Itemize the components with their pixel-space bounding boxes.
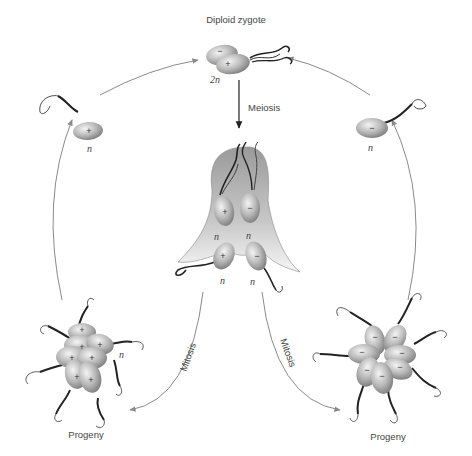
gamete-minus-sign: − bbox=[369, 123, 374, 133]
arrow-gamete-minus-to-zygote bbox=[288, 58, 370, 95]
progeny-left-sign: + bbox=[74, 372, 79, 382]
tetrad-cell-3-ploidy: n bbox=[220, 275, 225, 286]
gamete-plus-sign: + bbox=[86, 126, 91, 136]
gamete-minus-ploidy: n bbox=[368, 142, 373, 153]
progeny-left-ploidy: n bbox=[119, 349, 124, 360]
tetrad-sac: + − n n + − n n bbox=[176, 142, 300, 292]
progeny-left-sign: + bbox=[89, 353, 94, 363]
tetrad-cell-1-sign: + bbox=[222, 207, 227, 217]
zygote-sign-plus: + bbox=[225, 59, 230, 69]
progeny-right-sign: − bbox=[372, 332, 377, 342]
progeny-right: − − − − − − − Progeny bbox=[313, 294, 446, 442]
progeny-right-sign: − bbox=[379, 371, 384, 381]
arrow-mitosis-right bbox=[262, 292, 340, 410]
progeny-right-sign: − bbox=[397, 362, 402, 372]
progeny-right-sign: − bbox=[359, 347, 364, 357]
progeny-right-sign: − bbox=[399, 348, 404, 358]
tetrad-cell-3-sign: + bbox=[220, 251, 225, 261]
arrow-progeny-left-to-gamete bbox=[53, 120, 72, 300]
arrow-progeny-right-to-gamete bbox=[392, 120, 416, 300]
progeny-left-sign: + bbox=[97, 340, 102, 350]
zygote-sign-minus: − bbox=[217, 46, 222, 56]
mitosis-left-label: Mitosis bbox=[178, 341, 199, 373]
zygote: Diploid zygote − + 2n bbox=[205, 14, 292, 85]
tetrad-cell-1-ploidy: n bbox=[214, 231, 219, 242]
gamete-plus: + n bbox=[40, 96, 104, 154]
progeny-left: + + + + + + + n Progeny bbox=[26, 298, 143, 440]
progeny-left-sign: + bbox=[79, 325, 84, 335]
gamete-plus-ploidy: n bbox=[87, 143, 92, 154]
progeny-right-sign: − bbox=[392, 332, 397, 342]
tetrad-cell-4-sign: − bbox=[254, 251, 259, 261]
gamete-minus: − n bbox=[356, 100, 426, 153]
progeny-right-sign: − bbox=[364, 365, 369, 375]
life-cycle-diagram: Diploid zygote − + 2n Meiosis + n − n bbox=[0, 0, 472, 456]
zygote-ploidy: 2n bbox=[210, 74, 220, 85]
progeny-left-sign: + bbox=[69, 353, 74, 363]
meiosis-label: Meiosis bbox=[248, 102, 280, 113]
progeny-left-sign: + bbox=[79, 342, 84, 352]
progeny-left-sign: + bbox=[88, 375, 93, 385]
progeny-right-label: Progeny bbox=[370, 431, 406, 442]
zygote-label: Diploid zygote bbox=[206, 14, 266, 25]
tetrad-cell-4-ploidy: n bbox=[250, 276, 255, 287]
progeny-left-label: Progeny bbox=[68, 429, 104, 440]
tetrad-cell-2-sign: − bbox=[247, 203, 252, 213]
tetrad-cell-2-ploidy: n bbox=[246, 230, 251, 241]
arrow-gamete-plus-to-zygote bbox=[100, 60, 198, 95]
